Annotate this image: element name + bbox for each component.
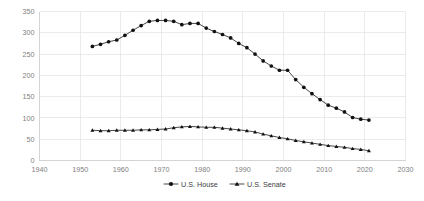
y-tick-label: 50	[27, 135, 35, 144]
data-point-marker	[343, 110, 347, 114]
data-series-layer	[90, 19, 371, 153]
data-point-marker	[245, 46, 249, 50]
data-point-marker	[107, 40, 111, 44]
x-tick-label: 1940	[32, 165, 48, 174]
data-point-marker	[180, 23, 184, 27]
data-point-marker	[172, 19, 176, 23]
data-point-marker	[147, 19, 151, 23]
data-point-marker	[115, 38, 119, 42]
y-tick-label: 300	[23, 28, 35, 37]
legend-label: U.S. House	[181, 180, 218, 189]
y-tick-label: 200	[23, 71, 35, 80]
data-point-marker	[359, 117, 363, 121]
data-point-marker	[91, 45, 95, 49]
y-axis-tick-labels: 050100150200250300350	[23, 7, 35, 165]
data-point-marker	[123, 33, 127, 37]
y-tick-label: 250	[23, 50, 35, 59]
vertical-gridlines	[80, 12, 405, 161]
data-point-marker	[99, 42, 103, 46]
data-point-marker	[310, 92, 314, 96]
line-chart: 050100150200250300350 194019501960197019…	[0, 0, 424, 201]
x-tick-label: 1990	[235, 165, 251, 174]
series-senate	[90, 125, 371, 153]
x-tick-label: 2020	[357, 165, 373, 174]
data-point-marker	[326, 103, 330, 107]
chart-legend: U.S. HouseU.S. Senate	[164, 180, 286, 189]
x-tick-label: 1970	[154, 165, 170, 174]
legend-label: U.S. Senate	[247, 180, 286, 189]
data-point-marker	[335, 106, 339, 110]
y-tick-label: 100	[23, 114, 35, 123]
x-tick-label: 1980	[194, 165, 210, 174]
x-tick-label: 1950	[72, 165, 88, 174]
horizontal-gridlines	[40, 12, 406, 140]
data-point-marker	[269, 64, 273, 68]
legend-item-senate: U.S. Senate	[230, 180, 286, 189]
data-point-marker	[204, 26, 208, 30]
data-point-marker	[278, 68, 282, 72]
data-point-marker	[261, 59, 265, 63]
data-point-marker	[286, 68, 290, 72]
data-point-marker	[302, 85, 306, 89]
legend-item-house: U.S. House	[164, 180, 218, 189]
x-tick-label: 2000	[276, 165, 292, 174]
data-point-marker	[294, 78, 298, 82]
data-point-marker	[213, 30, 217, 34]
series-house	[91, 19, 371, 122]
data-point-marker	[253, 52, 257, 56]
data-point-marker	[229, 36, 233, 40]
x-axis-tick-labels: 1940195019601970198019902000201020202030	[32, 165, 414, 174]
data-point-marker	[188, 22, 192, 26]
x-tick-label: 1960	[113, 165, 129, 174]
y-tick-label: 350	[23, 7, 35, 16]
data-point-marker	[367, 118, 371, 122]
x-tick-label: 2010	[316, 165, 332, 174]
legend-circle-marker-icon	[169, 182, 173, 186]
x-tick-label: 2030	[398, 165, 414, 174]
data-point-marker	[221, 33, 225, 37]
chart-container: 050100150200250300350 194019501960197019…	[0, 0, 424, 201]
data-point-marker	[156, 19, 160, 23]
data-point-marker	[196, 22, 200, 26]
y-tick-label: 150	[23, 92, 35, 101]
data-point-marker	[351, 116, 355, 120]
data-point-marker	[237, 42, 241, 46]
data-point-marker	[164, 19, 168, 23]
data-point-marker	[139, 24, 143, 28]
data-point-marker	[131, 28, 135, 32]
data-point-marker	[318, 98, 322, 102]
